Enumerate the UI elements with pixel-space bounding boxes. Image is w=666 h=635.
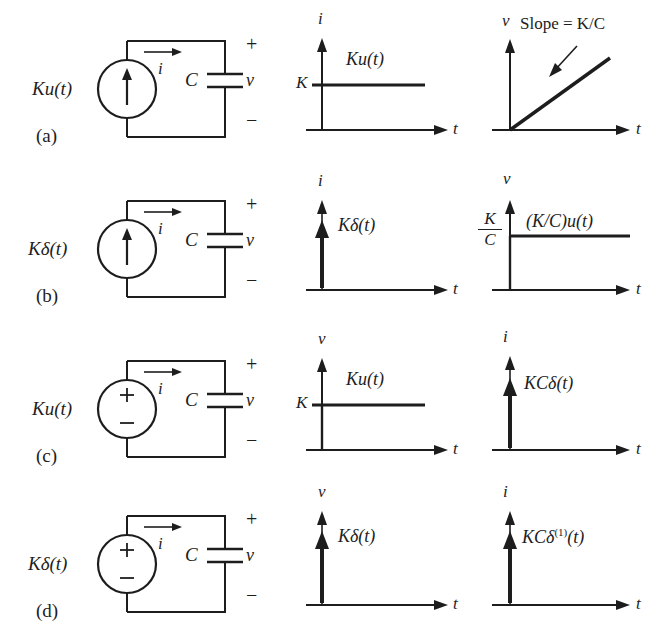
plot-d-right-curve-label-arg: (t) bbox=[567, 527, 584, 547]
polarity-plus-b: + bbox=[246, 194, 257, 214]
voltage-label-c: v bbox=[246, 391, 254, 409]
plot-d-right-xaxis-label: t bbox=[636, 595, 641, 612]
circuit-d: Kδ(t) (d) i C v + − bbox=[0, 475, 290, 635]
plot-d-mid-drawing bbox=[290, 475, 470, 635]
row-tag-c: (c) bbox=[36, 446, 57, 465]
circuit-b: Kδ(t) (b) i C v + − bbox=[0, 160, 290, 320]
plot-c-right-xaxis-label: t bbox=[636, 440, 641, 457]
figure-row-c: Ku(t) (c) i C v + − v t K Ku(t) bbox=[0, 320, 666, 480]
plot-c-mid-curve-label: Ku(t) bbox=[346, 370, 384, 388]
plot-c-mid-drawing bbox=[290, 320, 470, 480]
plot-b-mid-drawing bbox=[290, 160, 470, 320]
voltage-label-b: v bbox=[246, 231, 254, 249]
plot-d-mid-yaxis-label: v bbox=[318, 483, 326, 500]
plot-d-right: i t KCδ(1)(t) bbox=[470, 475, 666, 635]
plot-c-right-curve-label: KCδ(t) bbox=[524, 374, 573, 392]
figure-row-d: Kδ(t) (d) i C v + − v t Kδ(t) bbox=[0, 475, 666, 635]
plot-b-right-yaxis-label: v bbox=[503, 170, 511, 187]
plot-a-right-curve-label: Slope = K/C bbox=[520, 15, 605, 32]
row-tag-b: (b) bbox=[36, 286, 58, 305]
plot-c-mid-yaxis-label: v bbox=[318, 330, 326, 347]
mesh-current-label-d: i bbox=[158, 535, 163, 552]
plot-b-right-level-fraction: K C bbox=[478, 210, 502, 249]
source-label-b: Kδ(t) bbox=[28, 239, 67, 258]
plot-b-mid-curve-label: Kδ(t) bbox=[338, 216, 375, 234]
plot-c-mid-level-label: K bbox=[296, 394, 307, 411]
plot-a-mid: i t K Ku(t) bbox=[290, 0, 470, 160]
voltage-label-a: v bbox=[246, 71, 254, 89]
voltage-label-d: v bbox=[246, 546, 254, 564]
circuit-a: Ku(t) (a) i C v + − bbox=[0, 0, 290, 160]
figure-row-b: Kδ(t) (b) i C v + − i t Kδ(t) bbox=[0, 160, 666, 320]
plot-c-mid: v t K Ku(t) bbox=[290, 320, 470, 480]
polarity-plus-a: + bbox=[246, 34, 257, 54]
plot-c-right: i t KCδ(t) bbox=[470, 320, 666, 480]
row-tag-a: (a) bbox=[36, 126, 57, 145]
circuit-c: Ku(t) (c) i C v + − bbox=[0, 320, 290, 480]
capacitor-label-d: C bbox=[185, 545, 198, 564]
source-label-d: Kδ(t) bbox=[28, 554, 67, 573]
plot-b-mid-xaxis-label: t bbox=[453, 280, 458, 297]
source-label-a: Ku(t) bbox=[32, 79, 72, 98]
polarity-minus-d: − bbox=[246, 585, 257, 605]
capacitor-label-c: C bbox=[185, 390, 198, 409]
figure-canvas: Ku(t) (a) i C v + − i t K Ku(t) bbox=[0, 0, 666, 635]
capacitor-label-a: C bbox=[185, 70, 198, 89]
row-tag-d: (d) bbox=[36, 601, 58, 620]
plot-a-right: v t Slope = K/C bbox=[470, 0, 666, 160]
polarity-minus-b: − bbox=[246, 270, 257, 290]
plot-a-right-yaxis-label: v bbox=[502, 12, 510, 29]
plot-a-mid-drawing bbox=[290, 0, 470, 160]
mesh-current-label-b: i bbox=[158, 220, 163, 237]
plot-b-right: v t K C (K/C)u(t) bbox=[470, 160, 666, 320]
mesh-current-label-c: i bbox=[158, 380, 163, 397]
plot-b-right-level-numerator: K bbox=[484, 209, 495, 228]
plot-d-right-curve-label: KCδ(1)(t) bbox=[522, 527, 584, 546]
plot-a-mid-yaxis-label: i bbox=[318, 10, 323, 27]
figure-row-a: Ku(t) (a) i C v + − i t K Ku(t) bbox=[0, 0, 666, 160]
plot-c-mid-xaxis-label: t bbox=[453, 440, 458, 457]
plot-d-right-curve-label-base: KCδ bbox=[522, 527, 554, 547]
plot-d-mid-curve-label: Kδ(t) bbox=[338, 527, 375, 545]
source-label-c: Ku(t) bbox=[32, 399, 72, 418]
capacitor-label-b: C bbox=[185, 230, 198, 249]
plot-c-right-yaxis-label: i bbox=[503, 328, 508, 345]
plot-b-mid-yaxis-label: i bbox=[318, 172, 323, 189]
plot-a-mid-level-label: K bbox=[296, 74, 307, 91]
plot-b-right-xaxis-label: t bbox=[636, 280, 641, 297]
plot-a-right-xaxis-label: t bbox=[636, 120, 641, 137]
plot-a-mid-curve-label: Ku(t) bbox=[346, 50, 384, 68]
polarity-plus-d: + bbox=[246, 509, 257, 529]
plot-b-mid: i t Kδ(t) bbox=[290, 160, 470, 320]
polarity-minus-a: − bbox=[246, 110, 257, 130]
plot-a-mid-xaxis-label: t bbox=[453, 120, 458, 137]
plot-b-right-curve-label: (K/C)u(t) bbox=[526, 212, 593, 230]
polarity-minus-c: − bbox=[246, 430, 257, 450]
plot-d-mid: v t Kδ(t) bbox=[290, 475, 470, 635]
plot-d-right-yaxis-label: i bbox=[503, 483, 508, 500]
polarity-plus-c: + bbox=[246, 354, 257, 374]
plot-b-right-level-denominator: C bbox=[484, 230, 495, 249]
mesh-current-label-a: i bbox=[158, 60, 163, 77]
plot-d-right-curve-label-superscript: (1) bbox=[554, 526, 567, 538]
plot-d-mid-xaxis-label: t bbox=[453, 595, 458, 612]
